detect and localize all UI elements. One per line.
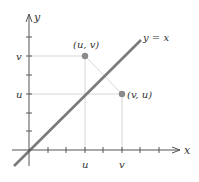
point-u-v	[82, 53, 88, 59]
line-label: y = x	[142, 32, 169, 43]
reflection-diagram: y x v u u v (u, v) (v, u) y = x	[0, 0, 199, 182]
point-v-u	[119, 91, 125, 97]
y-tick-label-u: u	[16, 89, 22, 100]
x-tick-label-u: u	[82, 159, 88, 170]
y-tick-label-v: v	[16, 51, 22, 62]
point-label-u-v: (u, v)	[73, 39, 99, 50]
y-axis-label: y	[33, 11, 41, 24]
x-tick-label-v: v	[119, 159, 125, 170]
x-axis-label: x	[184, 144, 191, 157]
point-label-v-u: (v, u)	[127, 89, 152, 100]
